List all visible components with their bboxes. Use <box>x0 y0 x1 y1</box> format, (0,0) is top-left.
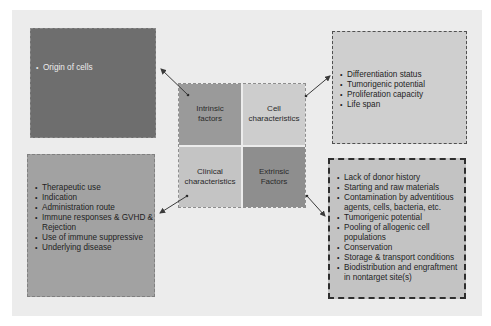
extrinsic-item: Tumorigenic potential <box>336 213 464 223</box>
clinical-item: Therapeutic use <box>34 183 154 193</box>
extrinsic-item: Biodistribution and engraftment in nonta… <box>336 263 464 283</box>
clinical-characteristics-detail-box: Therapeutic use Indication Administratio… <box>27 154 155 297</box>
clinical-item: Immune responses & GVHD & Rejection <box>34 213 154 233</box>
cell-item: Proliferation capacity <box>339 90 466 100</box>
extrinsic-item: Pooling of allogenic cell populations <box>336 223 464 243</box>
extrinsic-factors-cell: Extrinsic Factors <box>243 147 305 208</box>
clinical-item: Use of immune suppressive <box>34 233 154 243</box>
clinical-characteristics-cell: Clinical characteristics <box>179 147 241 208</box>
extrinsic-item: Contamination by adventitious agents, ce… <box>336 193 464 213</box>
extrinsic-item: Storage & transport conditions <box>336 253 464 263</box>
cell-item: Differentiation status <box>339 70 466 80</box>
clinical-item: Underlying disease <box>34 243 154 253</box>
cell-characteristics-cell: Cell characteristics <box>243 84 305 145</box>
extrinsic-factors-detail-box: Lack of donor history Starting and raw m… <box>328 158 466 299</box>
factors-center-grid: Intrinsic factors Cell characteristics C… <box>178 83 306 208</box>
intrinsic-factors-cell: Intrinsic factors <box>179 84 241 145</box>
cell-item: Tumorigenic potential <box>339 80 466 90</box>
extrinsic-item: Conservation <box>336 243 464 253</box>
intrinsic-factors-detail-box: Origin of cells <box>30 28 156 138</box>
cell-item: Life span <box>339 100 466 110</box>
extrinsic-item: Lack of donor history <box>336 173 464 183</box>
clinical-item: Administration route <box>34 203 154 213</box>
cell-characteristics-detail-box: Differentiation status Tumorigenic poten… <box>332 31 467 144</box>
extrinsic-item: Starting and raw materials <box>336 183 464 193</box>
intrinsic-item: Origin of cells <box>35 63 155 73</box>
clinical-item: Indication <box>34 193 154 203</box>
